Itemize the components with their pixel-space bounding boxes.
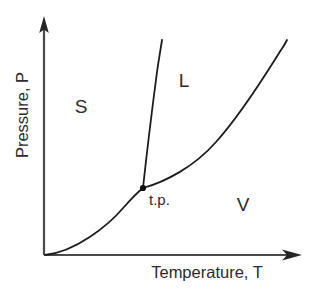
x-axis-title: Temperature, T: [151, 263, 263, 281]
triple-point-label: t.p.: [149, 191, 170, 208]
phase-diagram-canvas: S L V t.p. Temperature, T Pressure, P: [0, 0, 318, 297]
fusion-curve: [143, 40, 162, 188]
triple-point-marker: [140, 185, 146, 191]
region-label-vapor: V: [237, 194, 250, 215]
phase-diagram-figure: S L V t.p. Temperature, T Pressure, P: [0, 0, 318, 297]
region-label-solid: S: [75, 96, 88, 117]
y-axis-title: Pressure, P: [13, 72, 31, 158]
sublimation-curve: [45, 188, 143, 255]
vaporization-curve: [143, 40, 287, 188]
region-label-liquid: L: [179, 70, 190, 91]
